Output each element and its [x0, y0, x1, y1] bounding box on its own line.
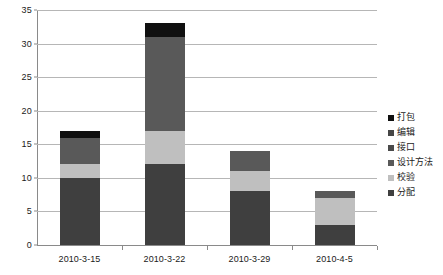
legend-label: 设计方法 [397, 155, 433, 170]
bar-segment-分配[interactable] [315, 225, 355, 245]
x-tick-mark [207, 246, 208, 250]
y-tick-label: 30 [22, 39, 37, 49]
y-tick-label: 10 [22, 173, 37, 183]
legend-label: 校验 [397, 170, 415, 185]
grid-line [37, 111, 377, 112]
y-tick-label: 35 [22, 5, 37, 15]
bar-2010-3-29[interactable] [230, 151, 270, 245]
bar-segment-设计方法[interactable] [230, 151, 270, 171]
grid-line [37, 10, 377, 11]
y-tick-label: 5 [27, 206, 37, 216]
legend-label: 接口 [397, 140, 415, 155]
bar-segment-设计方法[interactable] [315, 191, 355, 198]
y-tick-label: 25 [22, 72, 37, 82]
bar-2010-4-5[interactable] [315, 191, 355, 245]
x-tick-label: 2010-3-15 [59, 254, 101, 264]
y-tick-label: 15 [22, 139, 37, 149]
legend-swatch-icon [388, 115, 394, 121]
plot-area: 05101520253035 [37, 10, 377, 245]
legend-item[interactable]: 接口 [388, 140, 443, 155]
bar-segment-校验[interactable] [145, 131, 185, 165]
legend-item[interactable]: 打包 [388, 110, 443, 125]
bar-2010-3-22[interactable] [145, 23, 185, 245]
legend-item[interactable]: 编辑 [388, 125, 443, 140]
bar-segment-校验[interactable] [230, 171, 270, 191]
bar-segment-打包[interactable] [60, 131, 100, 138]
bar-segment-校验[interactable] [60, 164, 100, 177]
legend-swatch-icon [388, 160, 394, 166]
bar-segment-打包[interactable] [145, 23, 185, 36]
bar-segment-分配[interactable] [145, 164, 185, 245]
legend-item[interactable]: 校验 [388, 170, 443, 185]
x-tick-mark [122, 246, 123, 250]
bar-segment-分配[interactable] [60, 178, 100, 245]
y-tick-label: 0 [27, 240, 37, 250]
x-tick-label: 2010-4-5 [316, 254, 353, 264]
bar-2010-3-15[interactable] [60, 131, 100, 245]
bar-segment-校验[interactable] [315, 198, 355, 225]
y-tick-label: 20 [22, 106, 37, 116]
legend-swatch-icon [388, 145, 394, 151]
legend-swatch-icon [388, 175, 394, 181]
legend-label: 打包 [397, 110, 415, 125]
legend-swatch-icon [388, 190, 394, 196]
x-tick-label: 2010-3-29 [229, 254, 271, 264]
grid-line [37, 77, 377, 78]
legend-label: 分配 [397, 185, 415, 200]
x-tick-mark [377, 246, 378, 250]
bar-segment-设计方法[interactable] [60, 138, 100, 165]
chart-legend: 打包编辑接口设计方法校验分配 [388, 110, 443, 200]
legend-label: 编辑 [397, 125, 415, 140]
x-tick-mark [292, 246, 293, 250]
legend-item[interactable]: 分配 [388, 185, 443, 200]
bar-segment-设计方法[interactable] [145, 37, 185, 131]
bar-segment-分配[interactable] [230, 191, 270, 245]
grid-line [37, 44, 377, 45]
stacked-bar-chart: 05101520253035 2010-3-152010-3-222010-3-… [0, 0, 443, 275]
legend-swatch-icon [388, 130, 394, 136]
x-tick-label: 2010-3-22 [144, 254, 186, 264]
legend-item[interactable]: 设计方法 [388, 155, 443, 170]
